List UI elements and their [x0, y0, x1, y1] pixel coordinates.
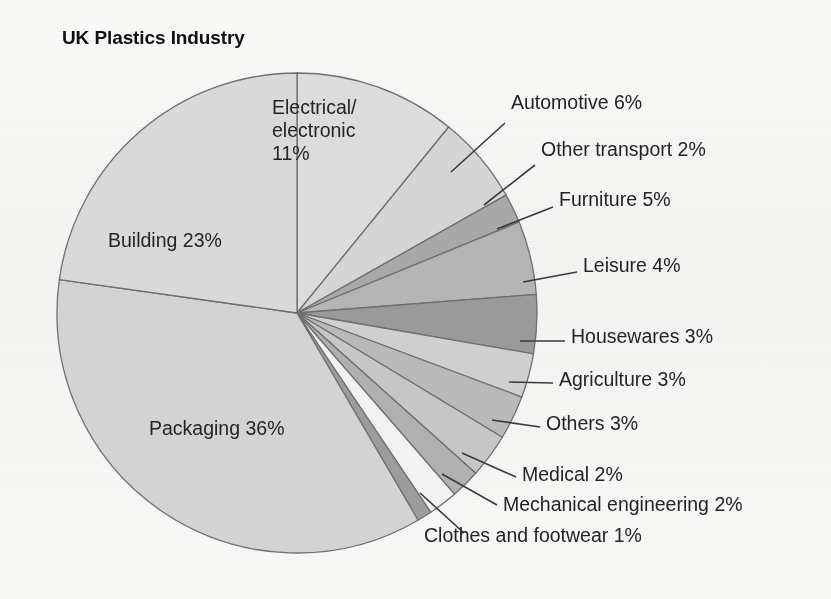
chart-page: UK Plastics Industry Electrical/ electro… — [0, 0, 831, 599]
callout-label-housewares: Housewares 3% — [571, 325, 713, 348]
leader-line-agriculture — [509, 382, 553, 383]
slice-label-line-2: electronic — [272, 119, 355, 141]
callout-label-medical: Medical 2% — [522, 463, 623, 486]
callout-label-mechanical-engineering: Mechanical engineering 2% — [503, 493, 743, 516]
slice-label-line-3: 11% — [272, 142, 310, 164]
callout-label-clothes-and-footwear: Clothes and footwear 1% — [424, 524, 642, 547]
callout-label-furniture: Furniture 5% — [559, 188, 671, 211]
callout-label-agriculture: Agriculture 3% — [559, 368, 686, 391]
slice-label-line-1: Electrical/ — [272, 96, 357, 118]
pie-slice-building — [59, 73, 297, 313]
callout-label-other-transport: Other transport 2% — [541, 138, 706, 161]
slice-label-building: Building 23% — [108, 229, 222, 252]
callout-label-leisure: Leisure 4% — [583, 254, 681, 277]
callout-label-others: Others 3% — [546, 412, 638, 435]
callout-label-automotive: Automotive 6% — [511, 91, 642, 114]
slice-label-packaging: Packaging 36% — [149, 417, 285, 440]
slice-label-electrical-electronic: Electrical/ electronic 11% — [272, 96, 412, 165]
